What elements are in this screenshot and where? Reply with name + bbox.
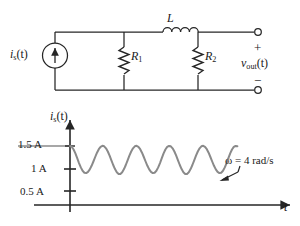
frequency-annotation-label: ω = 4 rad/s bbox=[225, 155, 274, 166]
waveform-plot bbox=[18, 120, 290, 212]
y-tick-label-0p5: 0.5 A bbox=[20, 186, 44, 197]
output-voltage-label-arg: (t) bbox=[257, 56, 268, 70]
figure-svg bbox=[0, 0, 300, 226]
resistor-r2-zigzag bbox=[193, 47, 203, 74]
y-tick-label-1p0: 1 A bbox=[31, 163, 47, 174]
y-axis-label-arg: (t) bbox=[57, 109, 68, 123]
resistor-r1-zigzag bbox=[119, 47, 129, 74]
y-tick-label-1p5: 1.5 A bbox=[18, 139, 42, 150]
inductor-coil bbox=[163, 28, 198, 32]
current-source-label: is(t) bbox=[10, 48, 28, 62]
inductor-label: L bbox=[167, 12, 174, 24]
circuit-diagram bbox=[43, 28, 262, 94]
resistor-r1-label-sub: 1 bbox=[138, 55, 142, 64]
current-source-label-arg: (t) bbox=[17, 47, 28, 61]
output-polarity-plus: + bbox=[254, 41, 261, 54]
output-voltage-label-sub: out bbox=[246, 62, 256, 71]
resistor-r2-label: R2 bbox=[205, 50, 216, 64]
figure-container: is(t) L R1 R2 + − vout(t) is(t) 1.5 A 1 … bbox=[0, 0, 300, 226]
waveform-curve bbox=[70, 146, 237, 174]
y-axis-label: is(t) bbox=[50, 110, 68, 124]
resistor-r1-label: R1 bbox=[131, 50, 142, 64]
x-axis-label: t bbox=[284, 201, 287, 213]
annotation-arrowhead bbox=[220, 176, 230, 182]
output-voltage-label: vout(t) bbox=[241, 57, 268, 71]
output-terminal-positive bbox=[255, 29, 262, 36]
resistor-r2-label-sub: 2 bbox=[212, 55, 216, 64]
annotation-leader-tail bbox=[238, 166, 240, 172]
output-polarity-minus: − bbox=[254, 74, 261, 87]
